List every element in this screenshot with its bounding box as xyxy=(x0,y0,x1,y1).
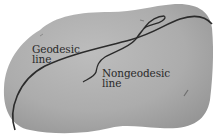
nongeodesic-label-line2: line xyxy=(102,78,170,88)
nongeodesic-label: Nongeodesic line xyxy=(102,68,170,88)
geodesic-label-line2: line xyxy=(32,54,80,64)
geodesic-diagram: Geodesic line Nongeodesic line xyxy=(0,0,213,136)
geodesic-label: Geodesic line xyxy=(32,44,80,64)
